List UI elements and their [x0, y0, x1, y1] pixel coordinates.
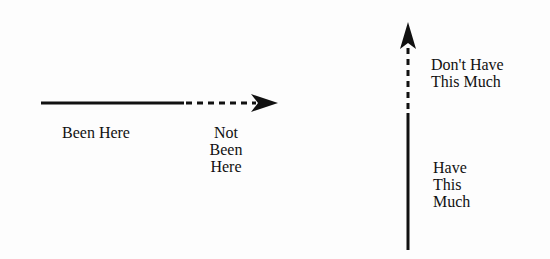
not-been-here-label: Not Been Here [196, 124, 256, 175]
vertical-arrowhead-icon [400, 22, 416, 49]
dont-have-this-much-label: Don't Have This Much [431, 56, 504, 90]
diagram-canvas: Been Here Not Been Here Don't Have This … [0, 0, 550, 259]
have-this-much-label: Have This Much [433, 159, 470, 210]
been-here-label: Been Here [62, 124, 130, 141]
